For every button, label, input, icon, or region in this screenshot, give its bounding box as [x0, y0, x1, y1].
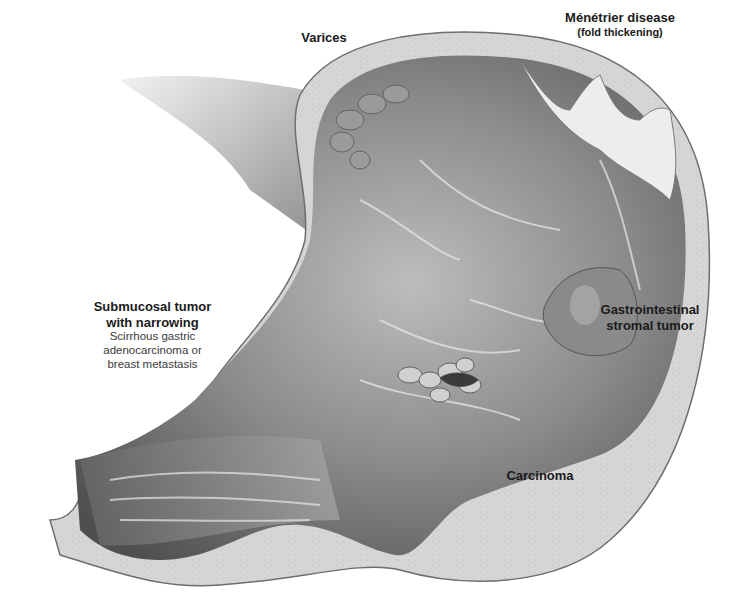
submucosal-desc-line2: adenocarcinoma or: [70, 344, 235, 358]
submucosal-desc-line1: Scirrhous gastric: [70, 330, 235, 344]
label-carcinoma: Carcinoma: [495, 468, 585, 484]
label-menetrier-disease: Ménétrier disease (fold thickening): [545, 10, 695, 39]
submucosal-title-line2: with narrowing: [70, 315, 235, 331]
esophagus: [120, 76, 320, 240]
gist-title-line2: stromal tumor: [590, 318, 710, 334]
varices-title: Varices: [284, 30, 364, 46]
label-varices: Varices: [284, 30, 364, 46]
menetrier-subtitle: (fold thickening): [545, 26, 695, 39]
gist-title-line1: Gastrointestinal: [590, 302, 710, 318]
submucosal-desc-line3: breast metastasis: [70, 358, 235, 372]
carcinoma-title: Carcinoma: [495, 468, 585, 484]
label-submucosal-tumor: Submucosal tumor with narrowing Scirrhou…: [70, 299, 235, 372]
submucosal-title-line1: Submucosal tumor: [70, 299, 235, 315]
label-gist: Gastrointestinal stromal tumor: [590, 302, 710, 333]
menetrier-title: Ménétrier disease: [545, 10, 695, 26]
